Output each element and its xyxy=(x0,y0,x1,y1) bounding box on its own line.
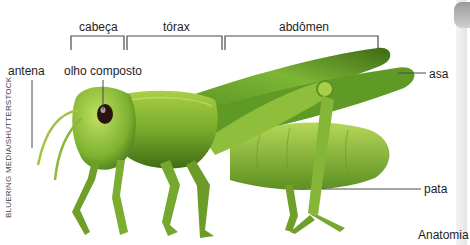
bracket-cabeca xyxy=(71,36,124,50)
bracket-lines xyxy=(71,36,378,50)
bracket-abdomen xyxy=(225,36,378,50)
bracket-torax xyxy=(127,36,222,50)
